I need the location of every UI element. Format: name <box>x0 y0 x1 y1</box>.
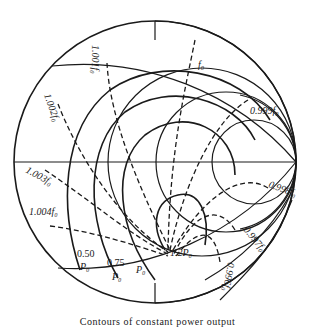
label-p050-unit: P₀ <box>79 261 90 272</box>
label-p075-value: 0.75 <box>107 257 125 268</box>
power-labels: 0.50 P₀ 0.75 P₀ P₀ 1.2P₀ <box>77 247 193 282</box>
label-0997f0: 0.997f₀ <box>241 224 268 253</box>
label-p050-value: 0.50 <box>77 248 95 259</box>
label-1003f0: 1.003f₀ <box>24 164 55 187</box>
label-0999f0: 0.999f₀ <box>250 105 279 116</box>
power-contour-120 <box>156 194 206 250</box>
label-p075-unit: P₀ <box>111 271 122 282</box>
label-p100: P₀ <box>135 264 146 275</box>
label-p120: 1.2P₀ <box>170 247 193 258</box>
label-0996f0: 0.996f₀ <box>221 262 237 293</box>
label-1004f0: 1.004f₀ <box>29 206 58 217</box>
smith-chart-grid <box>14 21 296 303</box>
freq-contour-1003 <box>45 170 168 254</box>
label-f0: f₀ <box>198 59 205 70</box>
label-1001f0: 1.001f₀ <box>90 45 101 74</box>
figure-caption: Contours of constant power output <box>0 316 315 327</box>
label-leaders <box>205 195 292 300</box>
